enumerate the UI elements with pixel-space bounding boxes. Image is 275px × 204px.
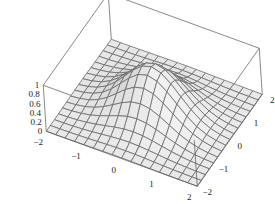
box-edge xyxy=(259,48,262,94)
box-edge xyxy=(108,0,111,39)
z-axis-ticks: 00.20.40.60.81 xyxy=(29,80,43,136)
z-tick-label: 0 xyxy=(38,126,43,136)
x-tick-label: 2 xyxy=(187,192,192,202)
y-tick-label: 2 xyxy=(270,95,275,105)
y-tick-label: 0 xyxy=(238,141,243,151)
y-tick-label: −1 xyxy=(219,164,229,174)
x-tick-label: 1 xyxy=(149,179,154,189)
z-tick-label: 0.2 xyxy=(30,117,41,127)
box-edge xyxy=(43,85,46,131)
x-tick-label: 0 xyxy=(112,165,117,175)
x-tick-label: −1 xyxy=(71,151,81,161)
x-tick-label: −2 xyxy=(33,137,43,147)
surface-plot: 00.20.40.60.81 −2−1012 −2−1012 xyxy=(0,0,275,204)
gaussian-surface xyxy=(46,39,262,186)
z-tick-label: 0.8 xyxy=(29,89,41,99)
y-tick-label: 1 xyxy=(254,118,259,128)
y-tick-label: −2 xyxy=(202,187,212,197)
z-tick-label: 0.6 xyxy=(29,99,41,109)
box-edge xyxy=(108,0,259,48)
z-tick-label: 1 xyxy=(35,80,40,90)
z-tick-label: 0.4 xyxy=(30,108,42,118)
plot-canvas: 00.20.40.60.81 −2−1012 −2−1012 xyxy=(0,0,275,204)
